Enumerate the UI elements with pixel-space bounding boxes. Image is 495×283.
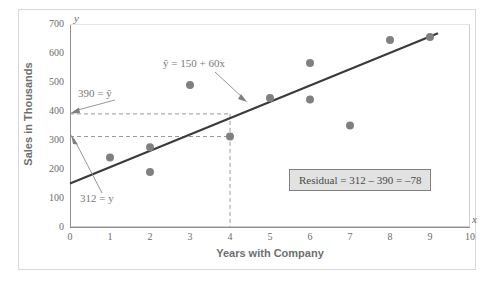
regression-line <box>70 33 438 183</box>
annotation-regression-equation: ŷ = 150 + 60x <box>163 57 225 69</box>
data-point <box>346 122 354 130</box>
leader-regression-equation <box>215 72 243 98</box>
arrowhead-predicted <box>70 108 80 114</box>
annotation-predicted-value: 390 = ŷ <box>78 87 112 99</box>
data-point <box>226 133 234 141</box>
leader-observed <box>74 139 102 193</box>
annotation-observed-value: 312 = y <box>80 192 114 204</box>
data-point <box>186 81 194 89</box>
regression-residual-figure: 700 600 500 400 300 200 100 0 0 1 2 3 4 … <box>0 0 495 283</box>
data-point <box>146 168 154 176</box>
data-point <box>426 33 434 41</box>
leader-predicted <box>74 100 115 111</box>
data-point <box>266 94 274 102</box>
data-point <box>386 36 394 44</box>
data-point <box>106 153 114 161</box>
plot-graphics-overlay <box>0 0 495 283</box>
residual-callout-box: Residual = 312 – 390 = –78 <box>289 169 431 191</box>
data-point <box>306 95 314 103</box>
data-point <box>306 59 314 67</box>
data-point <box>146 143 154 151</box>
